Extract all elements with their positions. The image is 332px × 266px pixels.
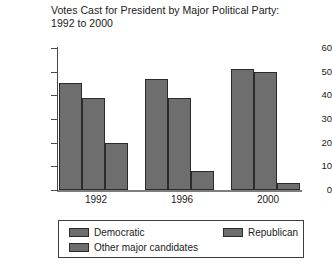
legend-item-other-major-candidates: Other major candidates: [69, 242, 198, 253]
x-axis-label-1996: 1996: [152, 194, 212, 205]
bar-1992-democratic: [59, 83, 82, 190]
y-axis-tick-0: [51, 190, 58, 191]
bar-1992-republican: [82, 98, 105, 190]
bar-2000-other: [277, 183, 300, 190]
bar-1992-other: [105, 143, 128, 190]
legend-label-other-major-candidates: Other major candidates: [94, 242, 198, 253]
legend-item-republican: Republican: [223, 227, 298, 238]
legend-swatch-democratic: [69, 228, 89, 237]
legend-swatch-republican: [223, 228, 243, 237]
chart-legend: Democratic Republican Other major candid…: [58, 220, 304, 258]
legend-label-democratic: Democratic: [94, 227, 145, 238]
x-axis-label-2000: 2000: [238, 194, 298, 205]
legend-swatch-other-major-candidates: [69, 243, 89, 252]
bar-1996-other: [191, 171, 214, 190]
plot-area: Millions of votes: [57, 48, 301, 190]
x-axis-label-1992: 1992: [66, 194, 126, 205]
legend-item-democratic: Democratic: [69, 227, 145, 238]
chart-title: Votes Cast for President by Major Politi…: [51, 4, 326, 30]
bar-2000-republican: [254, 72, 277, 190]
bar-chart-figure: Votes Cast for President by Major Politi…: [0, 0, 332, 266]
legend-label-republican: Republican: [248, 227, 298, 238]
x-axis-line: [57, 190, 302, 192]
bar-1996-republican: [168, 98, 191, 190]
bar-2000-democratic: [231, 69, 254, 190]
bar-1996-democratic: [145, 79, 168, 190]
